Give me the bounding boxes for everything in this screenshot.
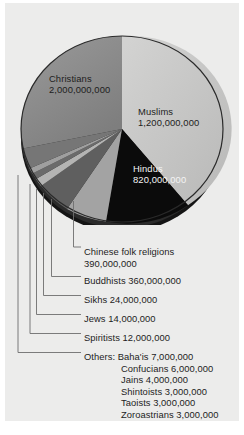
legend-item-buddhists: Buddhists 360,000,000 bbox=[84, 275, 181, 287]
leader-line-buddhists bbox=[52, 199, 82, 277]
legend-others-head: Others: Baha'is 7,000,000 bbox=[84, 351, 219, 363]
legend-item-jews: Jews 14,000,000 bbox=[84, 313, 156, 325]
leader-line-others bbox=[18, 175, 81, 353]
legend-item-others: Others: Baha'is 7,000,000 Confucians 6,0… bbox=[84, 351, 219, 421]
legend-others-shintoists: Shintoists 3,000,000 bbox=[84, 386, 219, 398]
chart-plate: Christians 2,000,000,000 Muslims 1,200,0… bbox=[5, 3, 239, 421]
legend-item-spiritists: Spiritists 12,000,000 bbox=[84, 332, 170, 344]
legend-others-jains: Jains 4,000,000 bbox=[84, 374, 219, 386]
legend-item-chinese-folk-religions: Chinese folk religions 390,000,000 bbox=[84, 246, 174, 269]
legend-others-zoroastrians: Zoroastrians 3,000,000 bbox=[84, 409, 219, 421]
legend-chinese-value: 390,000,000 bbox=[84, 258, 174, 270]
legend-item-sikhs: Sikhs 24,000,000 bbox=[84, 294, 157, 306]
legend-chinese-name: Chinese folk religions bbox=[84, 246, 174, 258]
legend-others-taoists: Taoists 3,000,000 bbox=[84, 397, 219, 409]
leader-line-chinese bbox=[74, 201, 82, 247]
leader-line-sikhs bbox=[44, 193, 82, 296]
pie-chart-figure: Christians 2,000,000,000 Muslims 1,200,0… bbox=[0, 0, 244, 435]
legend-others-confucians: Confucians 6,000,000 bbox=[84, 363, 219, 375]
